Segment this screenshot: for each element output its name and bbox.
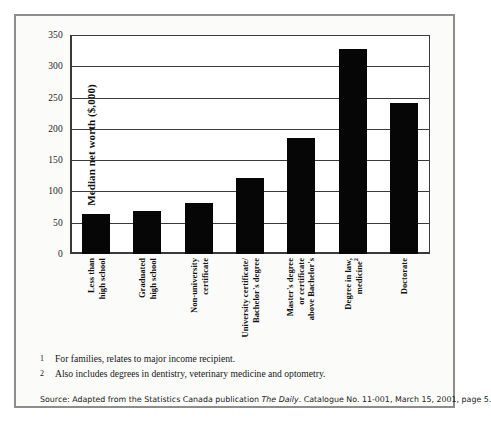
bar bbox=[236, 178, 264, 254]
bar-slot bbox=[70, 35, 121, 254]
y-tick-200: 200 bbox=[48, 124, 63, 134]
bar bbox=[287, 138, 315, 254]
bar-slot bbox=[224, 35, 275, 254]
x-axis-label: University certificate/Bachelor's degree bbox=[239, 258, 260, 337]
bar-slot bbox=[121, 35, 172, 254]
footnotes: 1For families, relates to major income r… bbox=[40, 352, 440, 382]
x-label-slot: Non-universitycertificate bbox=[173, 254, 224, 342]
y-tick-100: 100 bbox=[48, 186, 63, 196]
bar bbox=[390, 103, 418, 254]
footnote-number: 2 bbox=[40, 367, 44, 381]
footnote: 2Also includes degrees in dentistry, vet… bbox=[40, 367, 440, 381]
y-tick-150: 150 bbox=[48, 155, 63, 165]
x-axis-label: Non-universitycertificate bbox=[188, 258, 209, 313]
x-axis-label: Graduatedhigh school bbox=[137, 258, 158, 299]
figure-panel: Median net worth ($,000) 050100150200250… bbox=[14, 14, 455, 408]
x-axis-tick-labels: Less thanhigh schoolGraduatedhigh school… bbox=[70, 254, 430, 342]
bar-slot bbox=[379, 35, 430, 254]
y-tick-50: 50 bbox=[53, 218, 63, 228]
footnote-text: Also includes degrees in dentistry, vete… bbox=[55, 368, 326, 379]
bar bbox=[185, 203, 213, 254]
bar bbox=[133, 211, 161, 254]
source-note: Source: Adapted from the Statistics Cana… bbox=[40, 394, 452, 405]
y-tick-350: 350 bbox=[48, 30, 63, 40]
x-axis-label: Master's degreeor certificateabove Bache… bbox=[286, 258, 318, 320]
x-axis-label: Less thanhigh school bbox=[85, 258, 106, 299]
x-label-slot: Master's degreeor certificateabove Bache… bbox=[276, 254, 327, 342]
x-label-slot: Graduatedhigh school bbox=[121, 254, 172, 342]
source-publication: The Daily bbox=[261, 395, 298, 404]
bar-slot bbox=[173, 35, 224, 254]
source-suffix: . Catalogue No. 11-001, March 15, 2001, … bbox=[299, 395, 491, 404]
y-tick-250: 250 bbox=[48, 93, 63, 103]
x-axis-label: Doctorate bbox=[399, 258, 410, 294]
x-label-slot: Doctorate bbox=[379, 254, 430, 342]
bar bbox=[339, 49, 367, 254]
bar-slot bbox=[276, 35, 327, 254]
x-label-slot: Degree in law,medicine2 bbox=[327, 254, 378, 342]
footnote-text: For families, relates to major income re… bbox=[55, 353, 235, 364]
x-axis-label: Degree in law,medicine2 bbox=[342, 258, 363, 310]
x-label-slot: Less thanhigh school bbox=[70, 254, 121, 342]
bar-series bbox=[70, 35, 430, 254]
y-tick-300: 300 bbox=[48, 61, 63, 71]
footnote-marker: 2 bbox=[351, 258, 358, 261]
bar-slot bbox=[327, 35, 378, 254]
bar bbox=[82, 214, 110, 254]
plot-area: Median net worth ($,000) 050100150200250… bbox=[70, 35, 430, 254]
x-label-slot: University certificate/Bachelor's degree bbox=[224, 254, 275, 342]
source-prefix: Source: Adapted from the Statistics Cana… bbox=[40, 395, 261, 404]
footnote: 1For families, relates to major income r… bbox=[40, 352, 440, 366]
y-tick-0: 0 bbox=[58, 249, 63, 259]
footnote-number: 1 bbox=[40, 352, 44, 366]
